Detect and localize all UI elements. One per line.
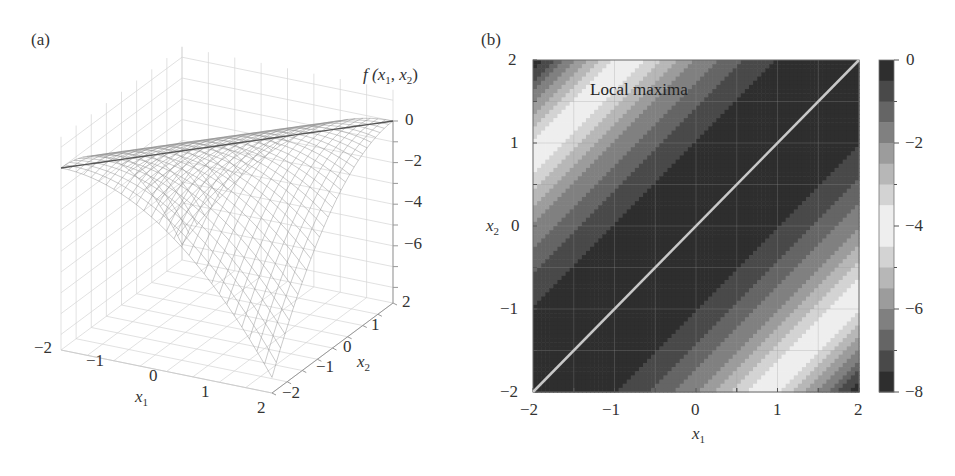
b-x2-tick-0: 0 — [511, 216, 520, 236]
z-tick-m4: −4 — [404, 192, 422, 212]
b-x2-tick-m1: −1 — [500, 299, 518, 319]
colorbar-tick-m6: −6 — [905, 299, 923, 319]
maxima-ridge-line — [533, 60, 859, 392]
b-x2-tick-1: 1 — [510, 133, 519, 153]
surface-ridge — [61, 121, 393, 168]
a-x1-tick-0: 0 — [149, 366, 158, 386]
a-x1-tick-1: 1 — [201, 382, 210, 402]
local-maxima-annotation: Local maxima — [590, 80, 688, 100]
z-tick-m2: −2 — [404, 151, 422, 171]
colorbar — [879, 60, 899, 393]
colorbar-tick-m4: −4 — [905, 216, 923, 236]
a-x2-tick-0: 0 — [343, 337, 352, 357]
contour-grid — [533, 60, 859, 392]
b-x1-tick-0: 0 — [691, 400, 700, 420]
b-x1-tick-1: 1 — [773, 400, 782, 420]
b-x1-axis-label: x1 — [692, 424, 705, 445]
panel-label-b: (b) — [481, 30, 501, 50]
a-x2-axis-label: x2 — [357, 352, 370, 373]
z-tick-0: 0 — [405, 110, 414, 130]
a-x1-tick-m1: −1 — [86, 351, 104, 371]
b-x2-tick-m2: −2 — [500, 382, 518, 402]
b-x1-tick-m2: −2 — [520, 400, 538, 420]
a-x2-tick-2: 2 — [402, 292, 411, 312]
b-x2-axis-label: x2 — [486, 216, 499, 237]
colorbar-tick-m2: −2 — [905, 133, 923, 153]
b-x1-tick-2: 2 — [854, 400, 863, 420]
z-tick-m6: −6 — [404, 234, 422, 254]
a-x2-tick-1: 1 — [371, 315, 380, 335]
b-x1-tick-m1: −1 — [602, 400, 620, 420]
z-axis-label: f (x1, x2) — [363, 65, 418, 86]
b-x2-tick-2: 2 — [508, 50, 517, 70]
a-x1-tick-2: 2 — [257, 398, 266, 418]
a-x2-tick-m2: −2 — [282, 383, 300, 403]
contour-fill — [533, 60, 860, 393]
a-x1-axis-label: x1 — [135, 387, 148, 408]
contour-frame — [533, 60, 859, 392]
colorbar-tick-0: 0 — [906, 50, 915, 70]
a-x2-tick-m1: −1 — [316, 357, 334, 377]
colorbar-tick-m8: −8 — [905, 382, 923, 402]
a-x1-tick-m2: −2 — [34, 338, 52, 358]
